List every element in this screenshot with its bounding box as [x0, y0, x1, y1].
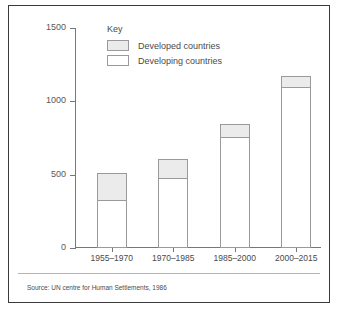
grey-swatch-icon: [107, 40, 129, 51]
x-axis-tick: [112, 248, 113, 252]
tick-mark: [70, 248, 76, 249]
bar-1985–2000: [220, 123, 250, 248]
x-axis-label: 1955–1970: [81, 253, 143, 263]
white-swatch-icon: [107, 55, 129, 66]
source-divider: [18, 273, 320, 274]
figure-container: 1500 1000 500 0 1955–19701970–19851985–2…: [0, 0, 340, 311]
legend-item-developing[interactable]: Developing countries: [107, 55, 257, 66]
bar-segment-developing: [158, 178, 188, 248]
bar-segment-developed: [158, 159, 188, 179]
bar-segment-developing: [220, 137, 250, 248]
x-axis-tick: [296, 248, 297, 252]
x-axis-label: 1970–1985: [143, 253, 205, 263]
y-tick-label: 1000: [46, 95, 66, 106]
legend-item-label: Developed countries: [138, 41, 220, 51]
x-axis-tick: [173, 248, 174, 252]
bar-2000–2015: [281, 75, 311, 248]
bar-1970–1985: [158, 158, 188, 248]
bar-segment-developing: [281, 87, 311, 248]
legend-item-label: Developing countries: [138, 56, 222, 66]
y-tick-label: 0: [61, 242, 66, 253]
bar-1955–1970: [97, 172, 127, 248]
x-axis-tick: [235, 248, 236, 252]
x-axis-label: 1985–2000: [204, 253, 266, 263]
figure-frame: 1500 1000 500 0 1955–19701970–19851985–2…: [8, 5, 330, 303]
bar-segment-developed: [97, 173, 127, 200]
legend-title: Key: [107, 24, 257, 34]
legend-item-developed[interactable]: Developed countries: [107, 40, 257, 51]
y-tick-label: 500: [51, 169, 66, 180]
y-tick-label: 1500: [46, 22, 66, 33]
x-axis-label: 2000–2015: [266, 253, 328, 263]
bar-segment-developing: [97, 200, 127, 248]
bar-segment-developed: [220, 124, 250, 137]
y-axis-tick-0: 0: [75, 248, 76, 249]
source-note: Source: UN centre for Human Settlements,…: [27, 284, 167, 291]
bar-segment-developed: [281, 76, 311, 88]
chart-legend: Key Developed countries Developing count…: [107, 24, 257, 70]
